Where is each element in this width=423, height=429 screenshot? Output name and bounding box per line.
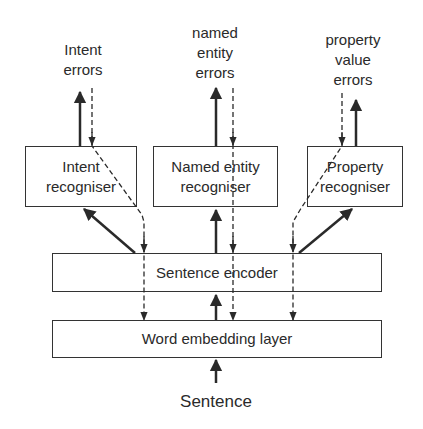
arrows-layer — [0, 0, 423, 429]
arrow-encoder-to-intent — [84, 209, 135, 253]
arrow-encoder-to-property — [299, 209, 352, 253]
dashed-intent-errors-path — [92, 88, 144, 320]
dashed-property-errors-path — [293, 93, 342, 320]
